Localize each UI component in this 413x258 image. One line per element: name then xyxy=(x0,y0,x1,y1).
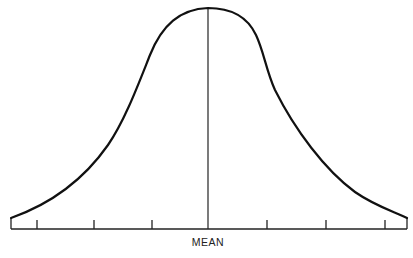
distribution-curve xyxy=(11,8,407,218)
x-axis-ticks xyxy=(37,220,385,229)
bell-curve-chart xyxy=(0,0,413,258)
x-axis xyxy=(11,218,407,229)
mean-label: MEAN xyxy=(0,236,413,248)
